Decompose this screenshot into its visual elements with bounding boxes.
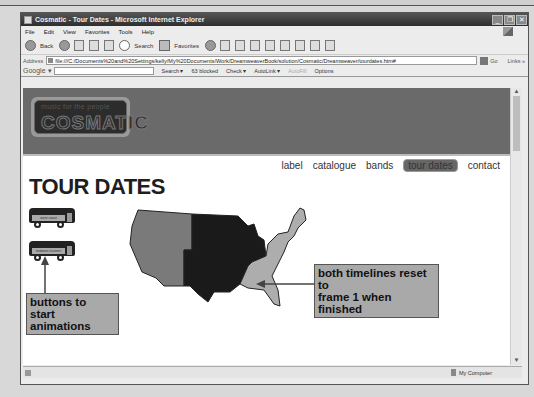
callout-line: buttons to: [30, 296, 115, 308]
screenshot-page: Cosmatic - Tour Dates - Microsoft Intern…: [0, 0, 534, 397]
buttons-callout: buttons to start animations: [26, 293, 119, 335]
callout-line: frame 1 when finished: [318, 291, 435, 315]
callout-line: start animations: [30, 308, 115, 332]
timeline-callout: both timelines reset to frame 1 when fin…: [314, 264, 439, 318]
callout-line: both timelines reset to: [318, 267, 435, 291]
annotation-arrows: [0, 0, 534, 397]
